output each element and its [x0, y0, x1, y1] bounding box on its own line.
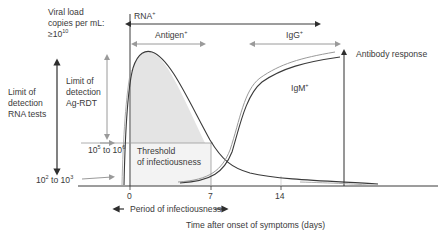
x-tick-14: 14	[275, 191, 285, 202]
antibody-response-label: Antibody response	[356, 49, 427, 60]
igm-label: IgM+	[291, 83, 309, 94]
y-axis-title: Viral load copies per mL: ≥1010	[48, 7, 104, 40]
limit-rna-tests-label: Limit of detection RNA tests	[8, 87, 46, 120]
igg-label: IgG+	[286, 30, 303, 41]
antigen-label: Antigen+	[155, 30, 187, 41]
x-axis-title: Time after onset of symptoms (days)	[186, 220, 325, 231]
x-tick-7: 7	[208, 191, 213, 202]
limit-ag-rdt-label: Limit of detection Ag-RDT	[66, 76, 101, 109]
x-tick-0: 0	[127, 191, 132, 202]
upper-level-label: 105 to 106	[88, 145, 125, 156]
period-of-infectiousness-label: Period of infectiousness	[130, 204, 221, 215]
rna-label: RNA+	[134, 11, 155, 22]
threshold-label: Threshold of infectiousness	[137, 146, 201, 168]
lower-level-label: 102 to 103	[36, 175, 73, 186]
